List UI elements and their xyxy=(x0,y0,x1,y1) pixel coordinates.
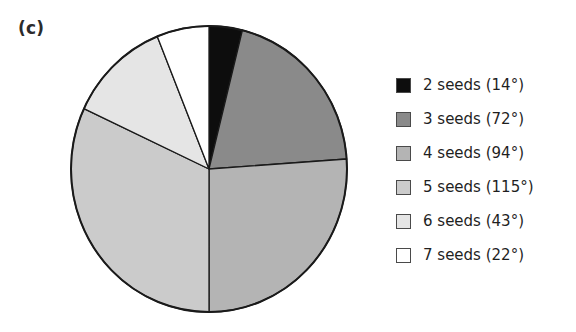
legend-swatch xyxy=(396,112,411,127)
legend-item: 7 seeds (22°) xyxy=(396,238,572,272)
pie-slice-group xyxy=(71,26,347,312)
legend-label: 2 seeds (14°) xyxy=(423,78,524,93)
legend-item: 2 seeds (14°) xyxy=(396,68,572,102)
legend-item: 5 seeds (115°) xyxy=(396,170,572,204)
legend-swatch xyxy=(396,180,411,195)
panel-label: (c) xyxy=(18,18,44,38)
legend-label: 6 seeds (43°) xyxy=(423,214,524,229)
legend-swatch xyxy=(396,248,411,263)
legend-label: 5 seeds (115°) xyxy=(423,180,534,195)
legend-swatch xyxy=(396,146,411,161)
figure-panel: (c) 2 seeds (14°)3 seeds (72°)4 seeds (9… xyxy=(0,0,576,332)
legend-swatch xyxy=(396,214,411,229)
legend-swatch xyxy=(396,78,411,93)
pie-chart xyxy=(70,25,348,313)
pie-chart-svg xyxy=(70,25,348,313)
pie-slice xyxy=(209,159,347,312)
legend: 2 seeds (14°)3 seeds (72°)4 seeds (94°)5… xyxy=(396,68,572,272)
legend-item: 6 seeds (43°) xyxy=(396,204,572,238)
legend-label: 7 seeds (22°) xyxy=(423,248,524,263)
legend-item: 3 seeds (72°) xyxy=(396,102,572,136)
legend-item: 4 seeds (94°) xyxy=(396,136,572,170)
legend-label: 3 seeds (72°) xyxy=(423,112,524,127)
legend-label: 4 seeds (94°) xyxy=(423,146,524,161)
